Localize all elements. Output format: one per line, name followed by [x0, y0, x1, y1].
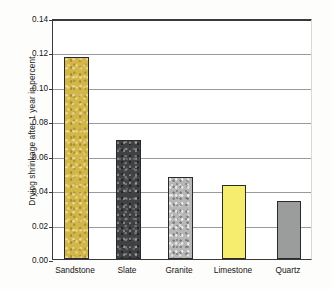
bar-chart-figure: Drying shrinkage after 1 year in percent…: [0, 0, 332, 289]
plot-area: [52, 19, 312, 260]
y-tickmark-0.02: [49, 227, 53, 228]
x-tick-label-sandstone: Sandstone: [55, 265, 95, 275]
gridline-0.12: [53, 54, 311, 55]
gridline-0.14: [53, 20, 311, 21]
bar-quartz[interactable]: [277, 201, 301, 260]
x-tick-label-limestone: Limestone: [214, 265, 252, 275]
y-tickmark-0.12: [49, 54, 53, 55]
x-tick-label-slate: Slate: [118, 265, 137, 275]
y-tickmark-0.06: [49, 158, 53, 159]
bar-sandstone[interactable]: [64, 57, 89, 259]
x-tick-label-granite: Granite: [165, 265, 192, 275]
y-tick-label: 0.08: [22, 118, 48, 127]
y-tickmark-0.00: [49, 261, 53, 262]
y-tickmark-0.04: [49, 192, 53, 193]
y-tick-label: 0.06: [22, 152, 48, 161]
gridline-0.08: [53, 123, 311, 124]
y-tickmark-0.08: [49, 123, 53, 124]
x-tick-label-quartz: Quartz: [276, 265, 301, 275]
y-axis-tick-labels: 0.00 0.02 0.04 0.06 0.08 0.10 0.12 0.14: [18, 0, 48, 289]
y-tick-label: 0.02: [22, 221, 48, 230]
gridline-0.06: [53, 158, 311, 159]
gridline-0.10: [53, 89, 311, 90]
bar-slate[interactable]: [116, 140, 141, 259]
y-tickmark-0.14: [49, 20, 53, 21]
y-tick-label: 0.12: [22, 49, 48, 58]
y-tick-label: 0.10: [22, 83, 48, 92]
y-tickmark-0.10: [49, 89, 53, 90]
y-tick-label: 0.00: [22, 256, 48, 265]
bar-granite[interactable]: [168, 177, 193, 259]
y-tick-label: 0.04: [22, 187, 48, 196]
y-tick-label: 0.14: [22, 15, 48, 24]
bar-limestone[interactable]: [222, 185, 246, 259]
